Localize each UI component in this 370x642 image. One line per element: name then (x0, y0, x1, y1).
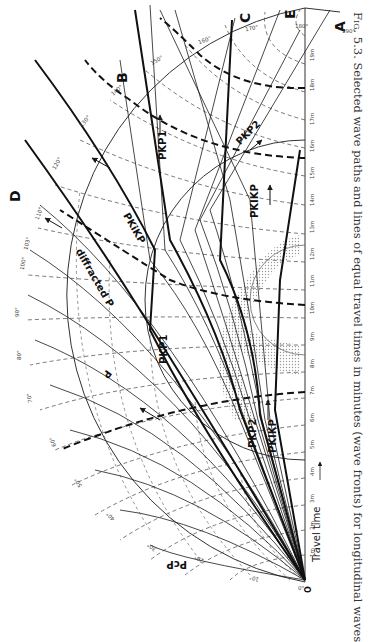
point-label-D: D (7, 190, 23, 202)
svg-text:10m: 10m (309, 302, 315, 314)
svg-text:140°: 140° (110, 84, 124, 97)
point-label-C: C (237, 13, 253, 23)
svg-text:15m: 15m (309, 167, 315, 179)
svg-text:40°: 40° (105, 511, 116, 523)
svg-text:13m: 13m (309, 221, 315, 233)
phase-label-diffracted-p: diffracted P (74, 246, 116, 309)
core-boundary (145, 140, 305, 460)
travel-time-axis-label: Travel time (311, 462, 322, 563)
svg-text:20°: 20° (193, 554, 205, 564)
svg-text:4m: 4m (309, 467, 315, 476)
svg-text:5m: 5m (309, 440, 315, 449)
point-label-E: E (282, 9, 298, 19)
phase-label-pkp1-lower: PKP1 (158, 335, 169, 364)
svg-text:0°: 0° (298, 585, 304, 591)
phase-label-p: P (101, 368, 114, 380)
svg-text:16m: 16m (309, 140, 315, 152)
bold-wavefronts (60, 18, 305, 450)
svg-text:50°: 50° (73, 477, 83, 489)
degree-ticks: 0° 10° 20° 30° 40° 50° 60° 70° 80° 90° 1… (14, 23, 355, 591)
svg-text:6m: 6m (309, 413, 315, 422)
svg-text:90°: 90° (14, 307, 20, 317)
figure-number: Fig. 5.3. (351, 12, 365, 59)
svg-text:10°: 10° (248, 574, 259, 582)
shaded-regions (219, 235, 300, 420)
phase-label-pcp: PcP (166, 559, 187, 570)
point-label-O: O (304, 586, 313, 593)
svg-text:17m: 17m (309, 113, 315, 125)
svg-text:3m: 3m (309, 494, 315, 503)
svg-text:130°: 130° (78, 114, 91, 128)
svg-text:11m: 11m (309, 275, 315, 287)
svg-text:14m: 14m (309, 194, 315, 206)
svg-text:103°: 103° (23, 236, 32, 250)
caption-text: Selected wave paths and lines of equal t… (351, 62, 365, 642)
svg-text:60°: 60° (48, 436, 57, 447)
figure-caption: Fig. 5.3. Selected wave paths and lines … (349, 12, 367, 592)
svg-text:12m: 12m (309, 248, 315, 260)
svg-text:110°: 110° (34, 206, 44, 221)
svg-text:7m: 7m (309, 386, 315, 395)
svg-text:1m: 1m (309, 548, 315, 557)
svg-text:120°: 120° (51, 156, 63, 171)
svg-text:70°: 70° (26, 393, 34, 404)
svg-text:150°: 150° (149, 54, 164, 66)
svg-text:100°: 100° (19, 256, 27, 270)
phase-label-pkp2-lower: PKP2 (247, 419, 258, 448)
svg-text:2m: 2m (309, 521, 315, 530)
svg-text:30°: 30° (146, 542, 158, 553)
point-label-B: B (114, 72, 130, 83)
ray-paths (28, 5, 330, 580)
phase-label-pkp2-upper: PKP2 (234, 118, 263, 147)
svg-text:170°: 170° (245, 24, 259, 32)
phase-label-pkp1-upper: PKP1 (157, 131, 168, 160)
svg-text:180°: 180° (295, 23, 308, 29)
svg-text:80°: 80° (16, 350, 22, 360)
svg-text:9m: 9m (309, 332, 315, 341)
minute-ticks: 1m 2m 3m 4m 5m 6m 7m 8m 9m 10m 11m 12m 1… (309, 49, 315, 557)
phase-label-pkikp-lower: PKIKP (267, 419, 278, 453)
svg-text:8m: 8m (309, 359, 315, 368)
svg-text:18m: 18m (309, 79, 315, 91)
svg-text:19m: 19m (309, 49, 315, 61)
phase-label-pkikp-upper: PKIKP (249, 184, 260, 218)
